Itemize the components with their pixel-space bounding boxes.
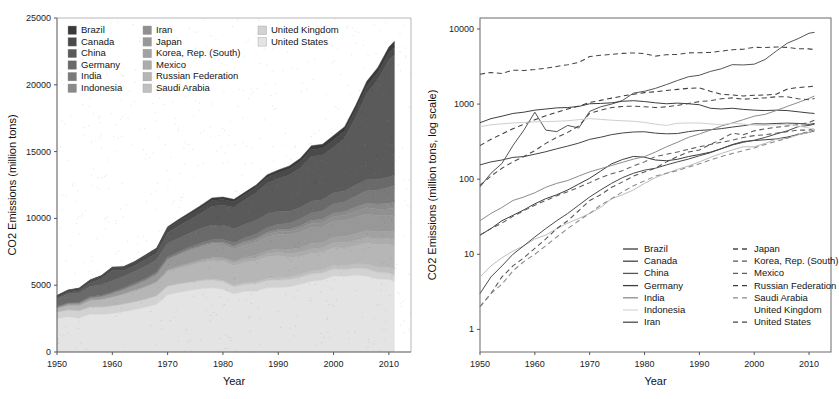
x-tick-label: 1970 — [158, 359, 178, 369]
legend-label: Saudi Arabia — [754, 292, 809, 303]
legend-label: Indonesia — [81, 82, 123, 93]
legend-label: Saudi Arabia — [156, 82, 211, 93]
legend-label: Brazil — [644, 243, 668, 254]
y-tick-label: 10 — [464, 249, 474, 259]
x-tick-label: 1990 — [268, 359, 288, 369]
legend-label: Russian Federation — [754, 280, 836, 291]
x-tick-label: 2000 — [744, 359, 764, 369]
legend-label: Brazil — [81, 24, 105, 35]
stacked-area-chart: 0500010000150002000025000195019601970198… — [0, 0, 419, 399]
legend-label: Russian Federation — [156, 70, 238, 81]
legend-swatch — [68, 49, 77, 58]
x-tick-label: 1980 — [213, 359, 233, 369]
legend-swatch — [143, 72, 152, 81]
y-tick-label: 1000 — [454, 99, 474, 109]
legend-label: Germany — [81, 59, 120, 70]
legend-label: Canada — [81, 36, 115, 47]
legend-label: Japan — [754, 243, 780, 254]
series-line — [480, 131, 815, 235]
legend-swatch — [143, 26, 152, 35]
legend-swatch — [258, 26, 267, 35]
x-axis-title: Year — [644, 375, 667, 387]
y-axis-title: CO2 Emissions (million tons) — [6, 114, 18, 255]
legend-label: Korea, Rep. (South) — [156, 47, 241, 58]
legend-label: Iran — [644, 316, 660, 327]
y-tick-label: 10000 — [26, 213, 51, 223]
log-line-chart: 1101001000100001950196019701980199020002… — [420, 0, 839, 399]
x-tick-label: 1950 — [470, 359, 490, 369]
legend-label: United States — [271, 36, 328, 47]
figure-root: 0500010000150002000025000195019601970198… — [0, 0, 839, 399]
legend: BrazilCanadaChinaGermanyIndiaIndonesiaIr… — [623, 243, 839, 327]
legend-label: Mexico — [156, 59, 186, 70]
y-tick-label: 25000 — [26, 13, 51, 23]
legend-swatch — [68, 26, 77, 35]
legend-swatch — [68, 84, 77, 93]
legend-label: Canada — [644, 255, 678, 266]
y-tick-label: 100 — [459, 174, 474, 184]
legend-swatch — [258, 38, 267, 47]
y-axis-title: CO2 Emissions (million tons, log scale) — [426, 90, 438, 281]
x-tick-label: 1970 — [580, 359, 600, 369]
x-tick-label: 2000 — [324, 359, 344, 369]
legend-label: United States — [754, 316, 811, 327]
legend-swatch — [143, 84, 152, 93]
legend-label: China — [644, 267, 670, 278]
legend-swatch — [143, 38, 152, 47]
x-axis-title: Year — [223, 375, 246, 387]
legend-label: India — [81, 70, 102, 81]
legend-swatch — [68, 72, 77, 81]
y-tick-label: 0 — [46, 347, 51, 357]
log-line-panel: 1101001000100001950196019701980199020002… — [420, 0, 839, 399]
x-tick-label: 1960 — [102, 359, 122, 369]
x-tick-label: 1950 — [47, 359, 67, 369]
x-tick-label: 2010 — [799, 359, 819, 369]
x-tick-label: 1980 — [635, 359, 655, 369]
x-tick-label: 1990 — [689, 359, 709, 369]
series-line — [480, 32, 815, 187]
legend-label: Mexico — [754, 267, 784, 278]
legend-label: United Kingdom — [271, 24, 339, 35]
series-line — [480, 47, 815, 74]
stacked-area-panel: 0500010000150002000025000195019601970198… — [0, 0, 419, 399]
y-tick-label: 10000 — [449, 24, 474, 34]
legend-label: Germany — [644, 280, 683, 291]
legend-swatch — [143, 61, 152, 70]
y-tick-label: 5000 — [31, 280, 51, 290]
y-tick-label: 15000 — [26, 147, 51, 157]
legend-label: Japan — [156, 36, 182, 47]
legend-label: Indonesia — [644, 304, 686, 315]
legend-label: Iran — [156, 24, 172, 35]
x-tick-label: 2010 — [379, 359, 399, 369]
legend-label: Korea, Rep. (South) — [754, 255, 839, 266]
legend: BrazilCanadaChinaGermanyIndiaIndonesiaIr… — [68, 24, 339, 93]
y-tick-label: 20000 — [26, 80, 51, 90]
legend-label: India — [644, 292, 665, 303]
series-line — [480, 86, 815, 146]
legend-swatch — [143, 49, 152, 58]
legend-label: United Kingdom — [754, 304, 822, 315]
legend-label: China — [81, 47, 107, 58]
legend-swatch — [68, 38, 77, 47]
legend-swatch — [68, 61, 77, 70]
x-tick-label: 1960 — [525, 359, 545, 369]
y-tick-label: 1 — [469, 324, 474, 334]
